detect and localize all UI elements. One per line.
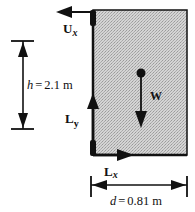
block — [93, 10, 187, 155]
force-ux-arrow — [56, 6, 93, 18]
width-label: d=0.81m — [110, 194, 162, 208]
force-ux-label: Ux — [63, 21, 77, 38]
force-ly-label: Ly — [65, 111, 79, 129]
force-w-label: W — [150, 89, 162, 103]
force-lx-label: Lx — [104, 164, 118, 180]
free-body-diagram: Ux Ly Lx W h=2.1m — [0, 0, 195, 212]
